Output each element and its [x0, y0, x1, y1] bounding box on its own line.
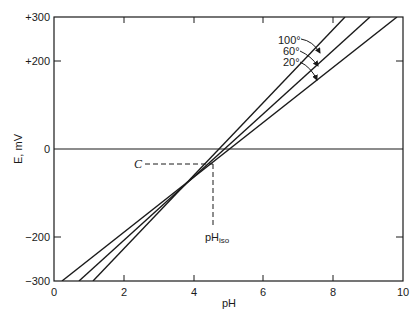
- svg-text:0: 0: [51, 286, 57, 298]
- svg-text:0: 0: [44, 143, 50, 155]
- svg-text:10: 10: [397, 286, 409, 298]
- svg-text:+300: +300: [25, 11, 50, 23]
- svg-text:20°: 20°: [283, 56, 300, 68]
- svg-text:8: 8: [330, 286, 336, 298]
- x-axis-label: pH: [222, 297, 236, 309]
- y-axis-label: E, mV: [12, 133, 24, 164]
- chart: 0 2 4 6 8 10 +300 +200 0 −200 −300 pH E,…: [0, 0, 420, 318]
- svg-text:2: 2: [121, 286, 127, 298]
- svg-text:6: 6: [260, 286, 266, 298]
- svg-text:4: 4: [191, 286, 197, 298]
- svg-text:−200: −200: [25, 231, 50, 243]
- svg-text:−300: −300: [25, 275, 50, 287]
- series-arrows: [300, 39, 320, 80]
- series-labels: 100° 60° 20°: [278, 34, 301, 68]
- point-c-label: C: [134, 157, 143, 171]
- ph-iso-label: pHiso: [205, 231, 230, 245]
- svg-text:+200: +200: [25, 55, 50, 67]
- isopotential-guides: [145, 164, 213, 228]
- y-tick-labels: +300 +200 0 −200 −300: [25, 11, 50, 287]
